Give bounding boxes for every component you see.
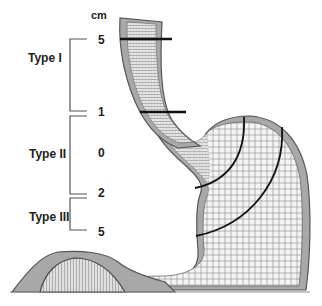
bracket-type-1 [70,39,87,111]
unit-label: cm [91,9,107,21]
type-labels: Type I Type II Type III [28,51,69,224]
type-1-label: Type I [28,51,62,65]
esophagus [120,18,200,148]
bracket-type-2 [70,116,87,194]
siewert-diagram: cm 5 1 0 2 5 Type I Type II Type III [0,0,322,306]
stomach-inner-mesh [90,112,302,286]
type-2-label: Type II [29,147,66,161]
tick-label-1: 1 [98,105,105,119]
diagram-svg: cm 5 1 0 2 5 Type I Type II Type III [0,0,322,306]
type-brackets [70,39,87,230]
tick-label-5-above: 5 [98,33,105,47]
scale: cm 5 1 0 2 5 [91,9,107,239]
type-3-label: Type III [29,210,69,224]
bracket-type-3 [70,198,87,230]
tick-label-5-below: 5 [98,225,105,239]
duodenum-bulge [12,251,175,292]
tick-label-2: 2 [98,186,105,200]
tick-label-0: 0 [98,146,105,160]
